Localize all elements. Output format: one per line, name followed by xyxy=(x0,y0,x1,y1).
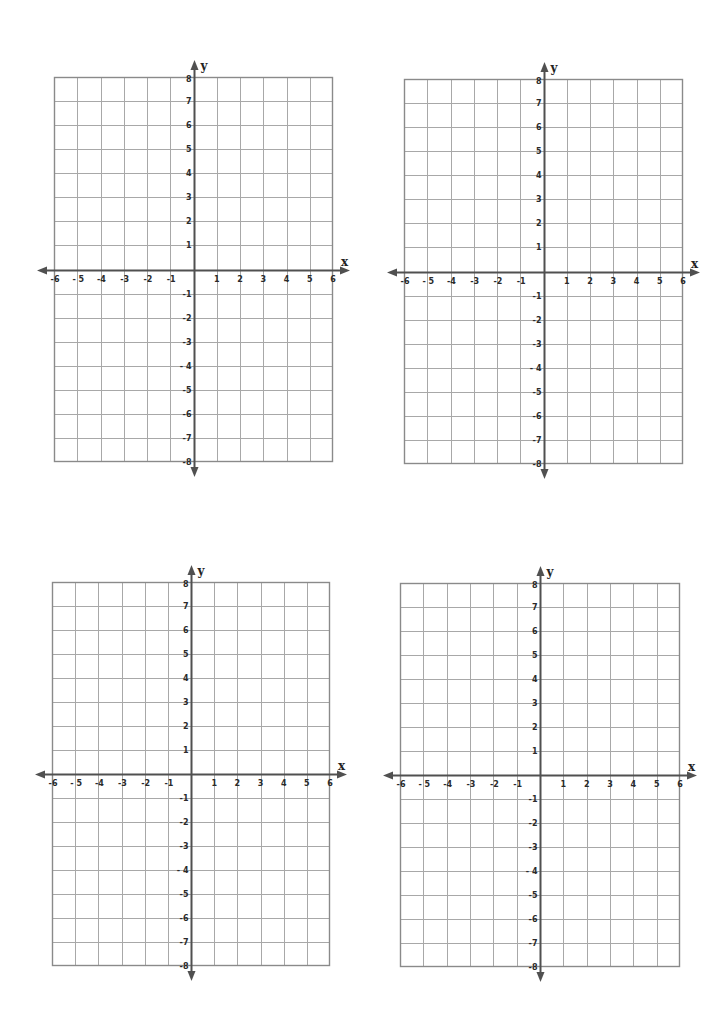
x-tick-label: 2 xyxy=(584,780,590,789)
y-tick-label: 7 xyxy=(186,97,192,106)
x-tick-label: 2 xyxy=(237,275,243,284)
x-tick-label: -3 xyxy=(467,780,476,789)
arrow-left-icon xyxy=(37,267,47,275)
y-tick-label: 2 xyxy=(532,723,538,732)
y-tick-label: 8 xyxy=(532,581,538,590)
y-tick-label: 6 xyxy=(183,626,189,635)
y-tick-label: -5 xyxy=(533,388,542,397)
y-axis-label: y xyxy=(550,61,559,75)
arrow-up-icon xyxy=(537,566,545,576)
x-axis-label: x xyxy=(338,759,346,773)
y-tick-label: - 4 xyxy=(530,364,542,373)
y-tick-label: -6 xyxy=(533,412,542,421)
x-tick-label: 4 xyxy=(281,779,287,788)
x-tick-label: -1 xyxy=(167,275,176,284)
y-tick-label: -5 xyxy=(529,891,538,900)
y-tick-label: 2 xyxy=(536,219,542,228)
grid-svg: xy-6- 5-4-3-2-112345687654321-1-2-3- 4-5… xyxy=(380,563,700,991)
y-tick-label: -5 xyxy=(180,890,189,899)
coordinate-plane-top-right: xy-6- 5-4-3-2-112345687654321-1-2-3- 4-5… xyxy=(384,59,703,492)
x-tick-label: 6 xyxy=(327,779,333,788)
y-tick-label: 2 xyxy=(186,217,192,226)
x-tick-label: 1 xyxy=(564,277,570,286)
x-tick-label: -4 xyxy=(447,277,456,286)
y-tick-label: -3 xyxy=(533,340,542,349)
x-tick-label: 2 xyxy=(587,277,593,286)
x-tick-label: 4 xyxy=(631,780,637,789)
x-tick-label: -2 xyxy=(490,780,499,789)
arrow-left-icon xyxy=(383,772,393,780)
y-tick-label: - 4 xyxy=(526,867,538,876)
arrow-down-icon xyxy=(191,467,199,477)
coordinate-plane-bottom-right: xy-6- 5-4-3-2-112345687654321-1-2-3- 4-5… xyxy=(380,563,700,995)
arrow-up-icon xyxy=(188,565,196,575)
y-tick-label: -6 xyxy=(183,410,192,419)
y-tick-label: - 4 xyxy=(180,362,192,371)
y-tick-label: -6 xyxy=(180,914,189,923)
coordinate-plane-top-left: xy-6- 5-4-3-2-112345687654321-1-2-3- 4-5… xyxy=(34,57,353,490)
x-tick-label: 5 xyxy=(304,779,310,788)
coordinate-plane-bottom-left: xy-6- 5-4-3-2-112345687654321-1-2-3- 4-5… xyxy=(32,562,350,994)
y-tick-label: 8 xyxy=(183,580,189,589)
x-axis-label: x xyxy=(688,760,696,774)
y-tick-label: -6 xyxy=(529,915,538,924)
y-tick-label: 7 xyxy=(536,99,542,108)
y-tick-label: -2 xyxy=(533,316,542,325)
y-tick-label: -1 xyxy=(529,795,538,804)
y-tick-label: 6 xyxy=(532,627,538,636)
x-tick-label: -6 xyxy=(397,780,406,789)
y-tick-label: -8 xyxy=(529,963,538,972)
y-tick-label: 3 xyxy=(536,195,542,204)
x-tick-label: -6 xyxy=(49,779,58,788)
x-tick-label: 6 xyxy=(330,275,336,284)
y-tick-label: 6 xyxy=(536,123,542,132)
y-tick-label: -7 xyxy=(180,938,189,947)
x-tick-label: -1 xyxy=(517,277,526,286)
y-tick-label: 7 xyxy=(183,602,189,611)
arrow-down-icon xyxy=(188,971,196,981)
x-tick-label: 6 xyxy=(677,780,683,789)
x-tick-label: -3 xyxy=(470,277,479,286)
y-tick-label: -5 xyxy=(183,386,192,395)
arrow-up-icon xyxy=(541,62,549,72)
x-tick-label: 3 xyxy=(610,277,616,286)
arrow-left-icon xyxy=(35,771,45,779)
x-tick-label: 5 xyxy=(654,780,660,789)
y-tick-label: 5 xyxy=(532,651,538,660)
y-tick-label: 5 xyxy=(186,145,192,154)
y-tick-label: 8 xyxy=(186,75,192,84)
x-tick-label: -6 xyxy=(51,275,60,284)
x-tick-label: - 5 xyxy=(422,277,434,286)
y-tick-label: -3 xyxy=(529,843,538,852)
x-tick-label: 1 xyxy=(561,780,567,789)
x-tick-label: -1 xyxy=(513,780,522,789)
y-tick-label: -8 xyxy=(533,460,542,469)
x-tick-label: -6 xyxy=(401,277,410,286)
x-axis-label: x xyxy=(341,255,349,269)
x-tick-label: -4 xyxy=(97,275,106,284)
y-tick-label: 3 xyxy=(183,698,189,707)
x-tick-label: 2 xyxy=(235,779,241,788)
y-tick-label: -8 xyxy=(180,962,189,971)
x-tick-label: 4 xyxy=(284,275,290,284)
x-tick-label: -2 xyxy=(141,779,150,788)
x-tick-label: 1 xyxy=(214,275,220,284)
x-axis-label: x xyxy=(691,257,699,271)
y-axis-label: y xyxy=(197,564,206,578)
y-tick-label: 7 xyxy=(532,603,538,612)
x-tick-label: -2 xyxy=(494,277,503,286)
y-tick-label: -3 xyxy=(183,338,192,347)
y-tick-label: 1 xyxy=(183,746,189,755)
x-tick-label: - 5 xyxy=(72,275,84,284)
x-tick-label: 6 xyxy=(680,277,686,286)
y-tick-label: 1 xyxy=(532,747,538,756)
arrow-down-icon xyxy=(537,972,545,982)
y-tick-label: -2 xyxy=(183,314,192,323)
y-tick-label: 5 xyxy=(536,147,542,156)
grid-svg: xy-6- 5-4-3-2-112345687654321-1-2-3- 4-5… xyxy=(32,562,350,990)
y-tick-label: -7 xyxy=(533,436,542,445)
x-tick-label: - 5 xyxy=(418,780,430,789)
y-axis-label: y xyxy=(200,59,209,73)
y-tick-label: -1 xyxy=(183,290,192,299)
grid-svg: xy-6- 5-4-3-2-112345687654321-1-2-3- 4-5… xyxy=(34,57,353,486)
